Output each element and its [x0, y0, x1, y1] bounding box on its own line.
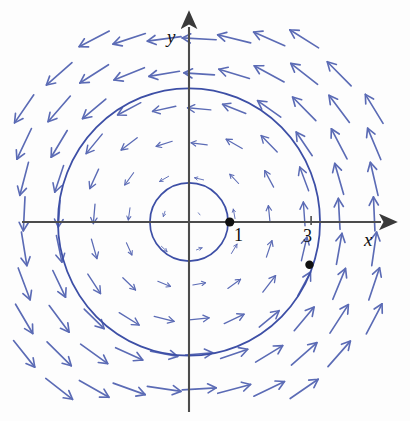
field-arrow	[84, 309, 104, 329]
field-arrow	[182, 384, 216, 393]
field-arrow	[232, 209, 235, 218]
point-one-zero	[225, 217, 234, 226]
field-arrow-shaft	[14, 341, 35, 368]
field-arrow	[218, 32, 251, 43]
field-arrow	[147, 35, 181, 44]
field-arrow	[182, 34, 216, 43]
field-arrow	[79, 380, 109, 397]
field-arrow	[331, 129, 347, 159]
field-arrow-head	[80, 75, 89, 83]
field-arrow	[21, 232, 30, 266]
field-arrow-shaft	[330, 305, 348, 334]
field-arrow	[79, 31, 109, 47]
field-arrow	[365, 94, 383, 123]
field-arrow	[196, 247, 202, 250]
field-arrow	[191, 141, 207, 146]
field-arrow	[266, 206, 271, 222]
field-arrow	[333, 163, 344, 194]
field-arrow-shaft	[47, 342, 71, 366]
field-arrow-shaft	[327, 62, 351, 86]
field-arrow	[158, 281, 171, 287]
field-arrow	[163, 211, 166, 216]
field-arrow	[290, 30, 319, 48]
field-arrow	[126, 243, 132, 255]
field-arrow	[231, 244, 237, 253]
field-arrow	[334, 198, 343, 229]
field-arrow	[123, 278, 136, 290]
field-arrow-shaft	[182, 388, 216, 390]
field-arrow	[160, 176, 169, 181]
field-arrow	[219, 67, 249, 78]
y-axis-label: y	[167, 27, 175, 46]
field-arrow	[91, 239, 98, 258]
field-arrow	[46, 63, 72, 85]
field-arrow	[154, 316, 174, 323]
field-arrow-shaft	[291, 63, 318, 84]
field-arrow	[125, 173, 134, 185]
field-arrow	[328, 341, 350, 367]
field-arrow	[224, 314, 244, 324]
field-arrow	[47, 342, 71, 366]
field-arrow	[48, 96, 70, 122]
field-arrow-shaft	[15, 95, 34, 123]
field-arrow-shaft	[49, 306, 69, 333]
field-arrow-shaft	[46, 378, 73, 399]
field-arrow	[18, 162, 29, 195]
field-arrow-shaft	[328, 341, 350, 367]
field-arrow	[258, 101, 281, 117]
field-arrow	[118, 103, 141, 115]
field-arrow	[81, 344, 108, 364]
field-arrow	[330, 305, 348, 334]
field-arrow	[89, 169, 98, 189]
field-arrow	[91, 204, 97, 224]
field-arrow	[113, 383, 145, 396]
field-arrow	[291, 63, 318, 84]
field-arrow	[16, 304, 33, 333]
point-on-outer-circle	[305, 261, 313, 269]
field-arrow	[156, 141, 172, 147]
field-arrow	[291, 343, 317, 365]
field-arrow	[83, 99, 106, 119]
field-arrow	[114, 68, 144, 81]
x-axis-label: x	[364, 230, 372, 249]
field-arrow	[333, 268, 347, 299]
field-arrow	[189, 315, 209, 322]
field-arrow	[49, 306, 69, 333]
field-arrow	[147, 386, 181, 395]
vector-field-figure: y x 1 3	[0, 0, 410, 421]
field-arrow	[368, 162, 378, 195]
field-arrow	[294, 307, 314, 331]
field-arrow	[263, 276, 276, 292]
field-arrow-head	[296, 132, 304, 141]
field-arrow	[18, 268, 31, 300]
field-arrow	[367, 128, 381, 159]
field-arrow-shaft	[23, 197, 25, 231]
field-arrow	[88, 274, 101, 294]
field-arrow	[80, 65, 109, 83]
field-arrow-group	[14, 30, 384, 400]
field-arrow	[327, 62, 351, 86]
field-arrow-shaft	[338, 198, 340, 229]
field-arrow	[290, 379, 318, 398]
field-arrow	[366, 304, 382, 334]
field-arrow	[256, 346, 283, 362]
field-arrow	[195, 177, 204, 180]
field-arrow	[259, 311, 279, 327]
field-arrow	[193, 281, 206, 285]
field-arrow-shaft	[83, 99, 106, 119]
x-tick-label-1: 1	[234, 226, 243, 244]
field-arrow-head	[340, 305, 348, 314]
field-arrow	[230, 174, 239, 183]
field-arrow	[254, 31, 285, 45]
field-arrow	[254, 66, 284, 82]
field-arrow	[369, 268, 381, 300]
field-arrow	[119, 313, 139, 325]
field-arrow	[261, 136, 277, 152]
field-arrow	[14, 341, 35, 368]
field-arrow	[296, 132, 312, 156]
field-arrow	[221, 348, 248, 359]
field-arrow	[336, 233, 345, 264]
field-arrow-shaft	[182, 38, 216, 40]
field-arrow	[329, 95, 349, 122]
field-arrow	[266, 241, 273, 257]
